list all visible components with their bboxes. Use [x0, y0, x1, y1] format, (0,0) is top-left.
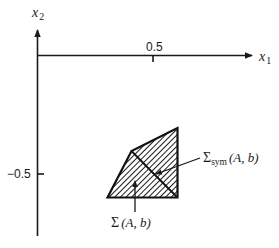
axes: 0.5 −0.5 x2 x1	[7, 5, 271, 236]
region-diagram: 0.5 −0.5 x2 x1 Σsym(A, b) Σ(A, b)	[0, 0, 279, 248]
feasible-region	[108, 128, 178, 198]
x2-tick-label: −0.5	[7, 167, 31, 181]
sigma-sym-label: Σsym(A, b)	[203, 150, 259, 167]
x1-tick-label: 0.5	[146, 40, 163, 54]
sigma-label: Σ(A, b)	[111, 215, 151, 230]
x2-axis-label: x2	[31, 5, 44, 22]
x1-axis-label: x1	[258, 49, 271, 66]
